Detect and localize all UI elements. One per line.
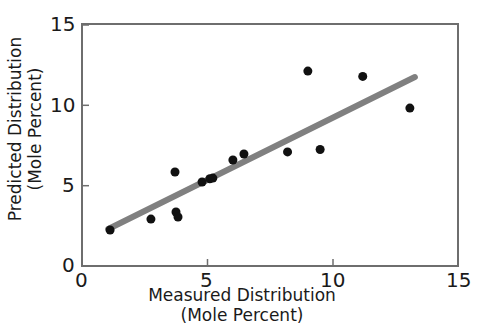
y-axis-title-line1: Predicted Distribution — [5, 37, 25, 221]
y-axis-title: Predicted Distribution (Mole Percent) — [6, 4, 45, 254]
scatter-point — [174, 212, 183, 221]
axes-frame — [82, 24, 458, 266]
scatter-point — [170, 168, 179, 177]
scatter-point — [208, 174, 217, 183]
x-axis-title-line1: Measured Distribution — [148, 285, 336, 305]
scatter-point — [239, 150, 248, 159]
scatter-point — [106, 226, 115, 235]
x-axis-title: Measured Distribution (Mole Percent) — [0, 286, 484, 325]
scatter-point — [405, 104, 414, 113]
y-axis-tick-label-0: 0 — [62, 255, 75, 275]
scatter-point — [228, 155, 237, 164]
scatter-point — [198, 177, 207, 186]
scatter-point — [303, 67, 312, 76]
scatter-point — [283, 147, 292, 156]
y-axis-tick-label-15: 15 — [50, 14, 75, 34]
scatter-point — [358, 72, 367, 81]
x-axis-title-line2: (Mole Percent) — [0, 306, 484, 326]
chart-figure: 0 5 10 15 0 5 10 15 Measured Distributio… — [0, 0, 484, 335]
scatter-point — [316, 145, 325, 154]
scatter-point — [146, 215, 155, 224]
y-axis-tick-label-10: 10 — [50, 95, 75, 115]
y-axis-tick-label-5: 5 — [62, 175, 75, 195]
y-axis-title-line2: (Mole Percent) — [26, 4, 46, 254]
plot-area-border — [82, 24, 458, 266]
